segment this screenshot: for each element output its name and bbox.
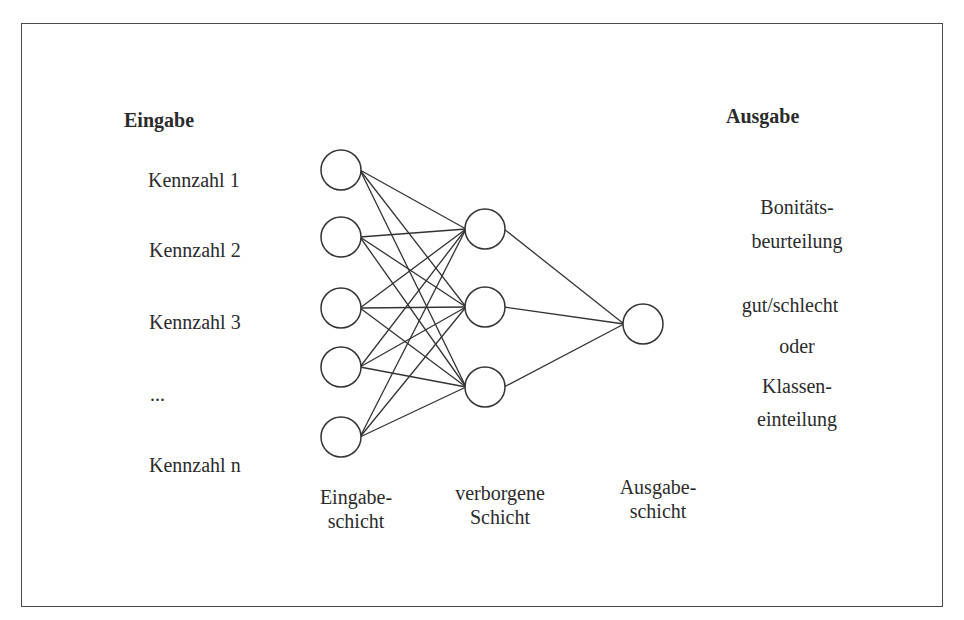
output-desc-line6: einteilung — [757, 407, 837, 431]
input-node — [321, 417, 361, 457]
output-desc-line1: Bonitäts- — [760, 195, 833, 219]
input-node — [321, 347, 361, 387]
edge-input-hidden — [360, 307, 466, 308]
output-heading: Ausgabe — [726, 104, 799, 128]
input-layer-label-line2: schicht — [328, 509, 385, 533]
output-layer-label: Ausgabe- schicht — [620, 475, 697, 523]
edge-input-hidden — [360, 367, 466, 387]
edge-hidden-output — [504, 324, 624, 387]
edge-input-hidden — [360, 307, 466, 367]
hidden-layer-label: verborgene Schicht — [455, 481, 545, 529]
hidden-node — [465, 367, 505, 407]
edge-input-hidden — [360, 229, 466, 237]
output-layer-label-line2: schicht — [630, 499, 687, 523]
diagram-canvas: Eingabe Ausgabe Kennzahl 1 Kennzahl 2 Ke… — [0, 0, 964, 620]
input-node — [321, 150, 361, 190]
input-label-3: Kennzahl 3 — [149, 310, 241, 334]
hidden-node — [465, 287, 505, 327]
edge-input-hidden — [360, 170, 466, 307]
input-label-ellipsis: ... — [150, 382, 165, 406]
hidden-layer-label-line2: Schicht — [470, 505, 530, 529]
edge-input-hidden — [360, 387, 466, 437]
output-desc-line4: oder — [779, 334, 815, 358]
input-node — [321, 217, 361, 257]
edge-input-hidden — [360, 307, 466, 437]
output-layer-label-line1: Ausgabe- — [620, 475, 697, 499]
input-label-n: Kennzahl n — [149, 453, 241, 477]
input-layer-label-line1: Eingabe- — [320, 485, 392, 509]
input-heading: Eingabe — [124, 108, 194, 132]
output-desc-line2: beurteilung — [751, 229, 842, 253]
edge-input-hidden — [360, 308, 466, 387]
edge-input-hidden — [360, 170, 466, 387]
output-node — [623, 304, 663, 344]
output-desc-line3: gut/schlecht — [742, 293, 839, 317]
hidden-layer-label-line1: verborgene — [455, 481, 545, 505]
hidden-node — [465, 209, 505, 249]
edge-input-hidden — [360, 229, 466, 367]
input-layer-label: Eingabe- schicht — [320, 485, 392, 533]
edge-input-hidden — [360, 170, 466, 229]
input-label-1: Kennzahl 1 — [148, 168, 240, 192]
output-desc-line5: Klassen- — [762, 374, 832, 398]
input-node — [321, 288, 361, 328]
input-label-2: Kennzahl 2 — [149, 238, 241, 262]
